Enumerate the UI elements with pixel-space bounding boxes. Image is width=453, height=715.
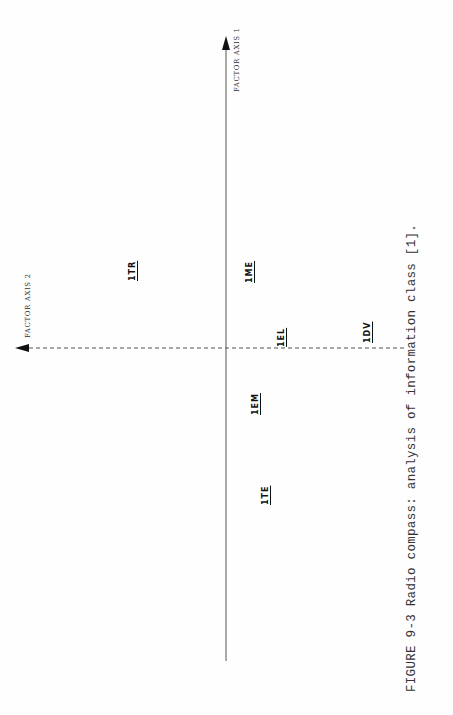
point-label-1me: 1ME xyxy=(245,261,254,283)
factor-axes xyxy=(0,0,453,715)
point-label-1el: 1EL xyxy=(277,328,286,347)
factor-axis-2-arrow-icon xyxy=(15,344,29,352)
factor-axis-1-arrow-icon xyxy=(222,36,230,50)
figure-page: FACTOR AXIS 1 FACTOR AXIS 2 1TR 1ME 1EL … xyxy=(0,0,453,715)
point-label-1tr: 1TR xyxy=(128,261,137,281)
point-label-1em: 1EM xyxy=(251,393,260,415)
point-label-1dv: 1DV xyxy=(363,322,372,343)
point-label-1te: 1TE xyxy=(261,486,270,506)
figure-caption: FIGURE 9-3 Radio compass: analysis of in… xyxy=(405,224,419,692)
factor-axis-1-label: FACTOR AXIS 1 xyxy=(233,27,241,92)
factor-axis-2-label: FACTOR AXIS 2 xyxy=(24,273,32,338)
